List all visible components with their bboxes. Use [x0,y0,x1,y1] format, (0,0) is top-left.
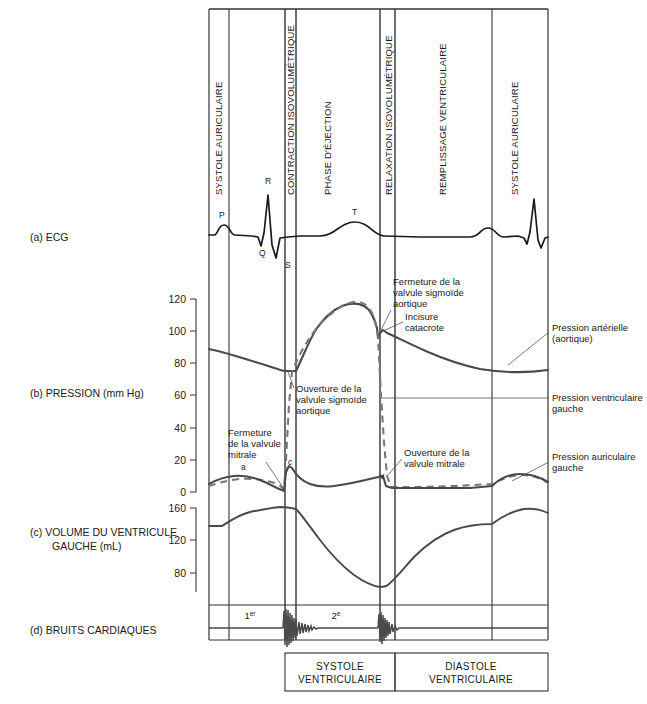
ecg-marker-q: Q [259,248,266,258]
annot-ouverture-sigmoide-line1: Ouverture de la [296,383,362,394]
phase-label-phase-ejection: PHASE D'ÉJECTION [322,101,333,195]
annot-pression-arterielle-line2: (aortique) [552,333,593,344]
band-systole-line1: SYSTOLE [316,661,364,672]
volume-tick-160: 160 [168,502,186,514]
annot-fermeture-sigmoide-line3: aortique [393,298,427,309]
pressure-tick-20: 20 [174,454,186,466]
pressure-tick-80: 80 [174,357,186,369]
annot-incisure-line2: catacrote [405,322,444,333]
phase-label-systole-auriculaire-1: SYSTOLE AURICULAIRE [213,82,224,195]
annot-ouverture-mitrale-line2: valvule mitrale [404,458,465,469]
pressure-tick-60: 60 [174,389,186,401]
annot-pression-ventriculaire-line1: Pression ventriculaire [552,392,643,403]
band-diastole-line1: DIASTOLE [445,661,497,672]
pressure-tick-40: 40 [174,422,186,434]
annot-ouverture-sigmoide-line2: valvule sigmoïde [296,394,367,405]
annot-pression-arterielle-line1: Pression artérielle [552,322,628,333]
annot-ouverture-sigmoide-line3: aortique [296,405,330,416]
annot-pression-auriculaire-line2: gauche [552,462,583,473]
annot-pression-auriculaire-line1: Pression auriculaire [552,451,635,462]
volume-tick-80: 80 [174,567,186,579]
annot-incisure-line1: Incisure [405,311,438,322]
row-label-pressure: (b) PRESSION (mm Hg) [30,387,144,399]
row-label-ecg: (a) ECG [30,231,69,243]
annot-fermeture-mitrale-line3: mitrale [228,449,257,460]
atrial-wave-a: a [241,462,246,472]
pressure-tick-100: 100 [168,325,186,337]
pressure-tick-120: 120 [168,293,186,305]
annot-fermeture-sigmoide-line1: Fermeture de la [393,276,461,287]
row-label-volume-line2: GAUCHE (mL) [52,540,121,552]
annot-ouverture-mitrale-line1: Ouverture de la [404,447,470,458]
annot-fermeture-mitrale-line2: de la valvule [228,438,281,449]
band-diastole-line2: VENTRICULAIRE [429,674,513,685]
phase-label-contraction-isovolumetrique: CONTRACTION ISOVOLUMÉTRIQUE [285,25,296,195]
phase-label-relaxation-isovolumetrique: RELAXATION ISOVOLUMÉTRIQUE [383,35,394,195]
band-systole-line2: VENTRICULAIRE [298,674,382,685]
ecg-marker-s: S [285,260,291,270]
phase-label-remplissage-ventriculaire: REMPLISSAGE VENTRICULAIRE [437,43,448,195]
wiggers-diagram: SYSTOLE AURICULAIRE CONTRACTION ISOVOLUM… [0,0,647,704]
diagram-canvas: SYSTOLE AURICULAIRE CONTRACTION ISOVOLUM… [0,0,647,704]
annot-pression-ventriculaire-line2: gauche [552,403,583,414]
volume-tick-120: 120 [168,534,186,546]
row-label-volume-line1: (c) VOLUME DU VENTRICULE [30,526,177,538]
annot-fermeture-mitrale-line1: Fermeture [228,427,272,438]
annot-fermeture-sigmoide-line2: valvule sigmoïde [393,287,464,298]
ecg-marker-t: T [352,207,357,217]
ecg-marker-p: P [219,210,225,220]
ecg-marker-r: R [265,176,271,186]
pressure-tick-0: 0 [180,486,186,498]
phase-label-systole-auriculaire-2: SYSTOLE AURICULAIRE [509,82,520,195]
row-label-sounds: (d) BRUITS CARDIAQUES [30,624,157,636]
